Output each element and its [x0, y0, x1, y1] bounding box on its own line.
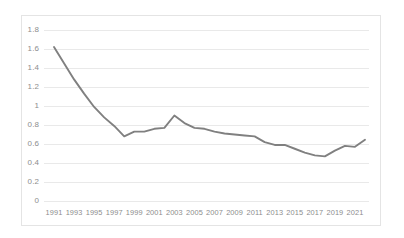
x-axis-tick-label: 2021 [342, 209, 368, 217]
y-axis-tick-label: 1.6 [13, 45, 39, 53]
y-axis-tick-label: 1.2 [13, 83, 39, 91]
chart-canvas [0, 0, 404, 238]
y-axis-tick-label: 0 [13, 197, 39, 205]
data-series-line-1 [54, 47, 365, 156]
y-axis-tick-label: 1 [13, 102, 39, 110]
y-axis-tick-label: 0.4 [13, 159, 39, 167]
series-group [54, 47, 365, 156]
y-axis-tick-label: 0.6 [13, 140, 39, 148]
y-axis-tick-label: 1.8 [13, 26, 39, 34]
y-axis-tick-label: 0.8 [13, 121, 39, 129]
gridlines-group [44, 31, 369, 202]
y-axis-tick-label: 1.4 [13, 64, 39, 72]
y-axis-tick-label: 0.2 [13, 178, 39, 186]
